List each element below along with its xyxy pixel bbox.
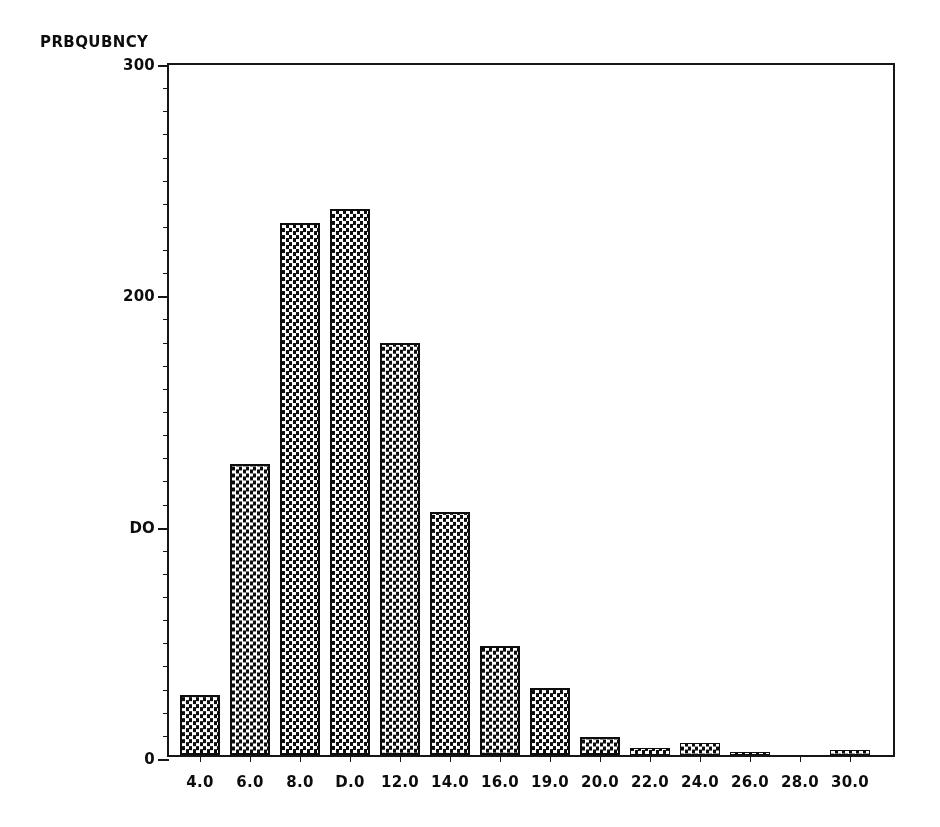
- x-tick-label: 12.0: [381, 773, 419, 791]
- x-tick-label: D.0: [335, 773, 365, 791]
- bar: [180, 695, 220, 755]
- x-tick-label: 14.0: [431, 773, 469, 791]
- x-tick: [450, 755, 451, 762]
- x-tick: [200, 755, 201, 762]
- bar: [330, 209, 370, 755]
- x-tick: [750, 755, 751, 762]
- x-tick-label: 16.0: [481, 773, 519, 791]
- plot-area: 300200DO0 4.06.08.0D.012.014.016.019.020…: [167, 63, 895, 757]
- x-tick-label: 6.0: [236, 773, 263, 791]
- x-tick-label: 26.0: [731, 773, 769, 791]
- bar: [230, 464, 270, 755]
- bar: [730, 752, 770, 755]
- x-tick-label: 30.0: [831, 773, 869, 791]
- x-tick-label: 20.0: [581, 773, 619, 791]
- y-tick-major: [158, 65, 169, 67]
- bar: [680, 743, 720, 755]
- x-tick: [300, 755, 301, 762]
- x-tick: [700, 755, 701, 762]
- x-tick: [250, 755, 251, 762]
- x-tick-label: 22.0: [631, 773, 669, 791]
- y-tick-major: [158, 759, 169, 761]
- x-tick: [400, 755, 401, 762]
- x-tick: [850, 755, 851, 762]
- y-tick-label: 0: [144, 750, 155, 768]
- bar: [430, 512, 470, 755]
- x-tick: [550, 755, 551, 762]
- y-axis-title: PRBQUBNCY: [40, 33, 148, 51]
- bar: [480, 646, 520, 755]
- x-tick-label: 19.0: [531, 773, 569, 791]
- bar: [280, 223, 320, 755]
- bar: [830, 750, 870, 755]
- x-tick: [800, 755, 801, 762]
- x-tick-label: 28.0: [781, 773, 819, 791]
- bar: [380, 343, 420, 755]
- x-tick-label: 24.0: [681, 773, 719, 791]
- y-tick-major: [158, 528, 169, 530]
- x-tick-label: 8.0: [286, 773, 313, 791]
- x-tick: [500, 755, 501, 762]
- x-tick: [600, 755, 601, 762]
- bar: [580, 737, 620, 756]
- y-tick-label: 200: [123, 287, 155, 305]
- y-tick-major: [158, 296, 169, 298]
- y-tick-label: DO: [129, 519, 155, 537]
- x-tick: [350, 755, 351, 762]
- y-tick-label: 300: [123, 56, 155, 74]
- bars-layer: [169, 65, 893, 755]
- bar: [530, 688, 570, 755]
- x-tick-label: 4.0: [186, 773, 213, 791]
- histogram-figure: PRBQUBNCY 300200DO0 4.06.08.0D.012.014.0…: [0, 0, 940, 827]
- bar: [630, 748, 670, 755]
- x-tick: [650, 755, 651, 762]
